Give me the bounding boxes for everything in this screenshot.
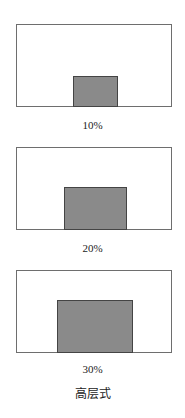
coverage-block-30 <box>57 300 133 353</box>
figure-caption: 高层式 <box>0 384 185 402</box>
panel-label-10: 10% <box>0 119 185 131</box>
panel-label-20: 20% <box>0 242 185 254</box>
panel-frame-20 <box>16 147 172 230</box>
coverage-block-10 <box>73 76 118 107</box>
panel-frame-10 <box>16 24 172 107</box>
panel-frame-30 <box>16 270 172 353</box>
panel-label-30: 30% <box>0 363 185 375</box>
coverage-block-20 <box>64 187 127 230</box>
